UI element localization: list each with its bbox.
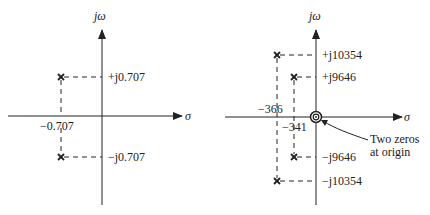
pole-x-icon	[291, 154, 297, 160]
zeros-annotation: Two zeros at origin	[370, 133, 419, 159]
left-diagram	[8, 30, 182, 205]
annotation-arrow	[323, 121, 368, 140]
right-jw-label: jω	[309, 10, 321, 22]
pole-x-icon	[291, 74, 297, 80]
left-real-label: −0.707	[40, 120, 74, 132]
double-zero-icon	[311, 112, 322, 123]
zeros-annotation-line2: at origin	[370, 146, 419, 159]
pole-x-icon	[58, 154, 64, 160]
pole-zero-plots	[0, 0, 430, 215]
right-imag-label-4: −j10354	[322, 175, 362, 187]
right-sigma-label: σ	[404, 111, 410, 123]
right-imag-label-2: +j9646	[322, 71, 356, 83]
left-imag-label-pos: +j0.707	[108, 71, 145, 83]
left-jw-label: jω	[94, 10, 106, 22]
right-imag-label-1: +j10354	[322, 49, 362, 61]
right-imag-label-3: −j9646	[322, 151, 356, 163]
right-real-label-366: −366	[258, 103, 283, 115]
pole-x-icon	[274, 52, 280, 58]
pole-x-icon	[58, 74, 64, 80]
left-imag-label-neg: −j0.707	[108, 151, 145, 163]
pole-x-icon	[274, 178, 280, 184]
left-sigma-label: σ	[185, 110, 191, 122]
right-real-label-341: −341	[282, 121, 307, 133]
right-diagram	[225, 30, 402, 205]
